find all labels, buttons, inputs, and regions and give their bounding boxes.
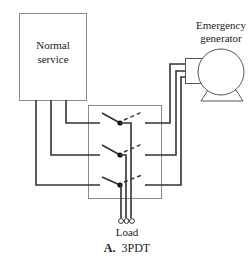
- generator-symbol: Emergency generator: [186, 19, 247, 101]
- generator-body: [198, 49, 244, 95]
- generator-label-line2: generator: [200, 32, 242, 44]
- caption-text: 3PDT: [122, 241, 151, 255]
- svg-text:A. 3PDT: A. 3PDT: [104, 241, 151, 255]
- generator-label-line1: Emergency: [196, 19, 246, 31]
- normal-service-label-line1: Normal: [36, 39, 70, 51]
- transfer-switch-diagram: Normal service: [0, 0, 251, 264]
- normal-service-wires: [36, 100, 100, 185]
- load-label: Load: [116, 226, 139, 238]
- switch-pole-3: [102, 175, 142, 188]
- generator-wires: [145, 64, 188, 185]
- normal-service-box: Normal service: [20, 14, 87, 101]
- load-wires: [120, 123, 131, 218]
- caption: A. 3PDT: [104, 241, 151, 255]
- caption-prefix: A.: [104, 241, 116, 255]
- load-terminals: [119, 219, 135, 224]
- normal-service-label-line2: service: [37, 53, 68, 65]
